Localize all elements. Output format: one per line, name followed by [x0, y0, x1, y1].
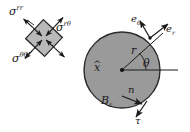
- label-sigma-theta-theta: σθθ: [12, 53, 28, 64]
- label-e-r: er: [166, 24, 175, 34]
- label-body-b-epsilon: Bε: [101, 95, 113, 106]
- figure-canvas: σrr σrθ σθθ eθ er r θ ^x n Bε τ: [0, 0, 190, 132]
- stress-arrow-right-out: [55, 49, 64, 58]
- label-traction-tau: τ: [135, 116, 141, 126]
- label-normal-n: n: [128, 85, 134, 95]
- center-point-dot: [120, 68, 124, 72]
- basis-vector-etheta-arrow: [140, 21, 150, 38]
- label-e-theta: eθ: [131, 14, 141, 24]
- label-center-x-hat: ^x: [94, 62, 100, 73]
- label-sigma-rr: σrr: [9, 6, 23, 17]
- label-radius-r: r: [131, 45, 136, 56]
- label-sigma-r-theta: σrθ: [56, 22, 71, 33]
- basis-vector-origin-dot: [148, 36, 151, 39]
- label-angle-theta: θ: [143, 58, 150, 69]
